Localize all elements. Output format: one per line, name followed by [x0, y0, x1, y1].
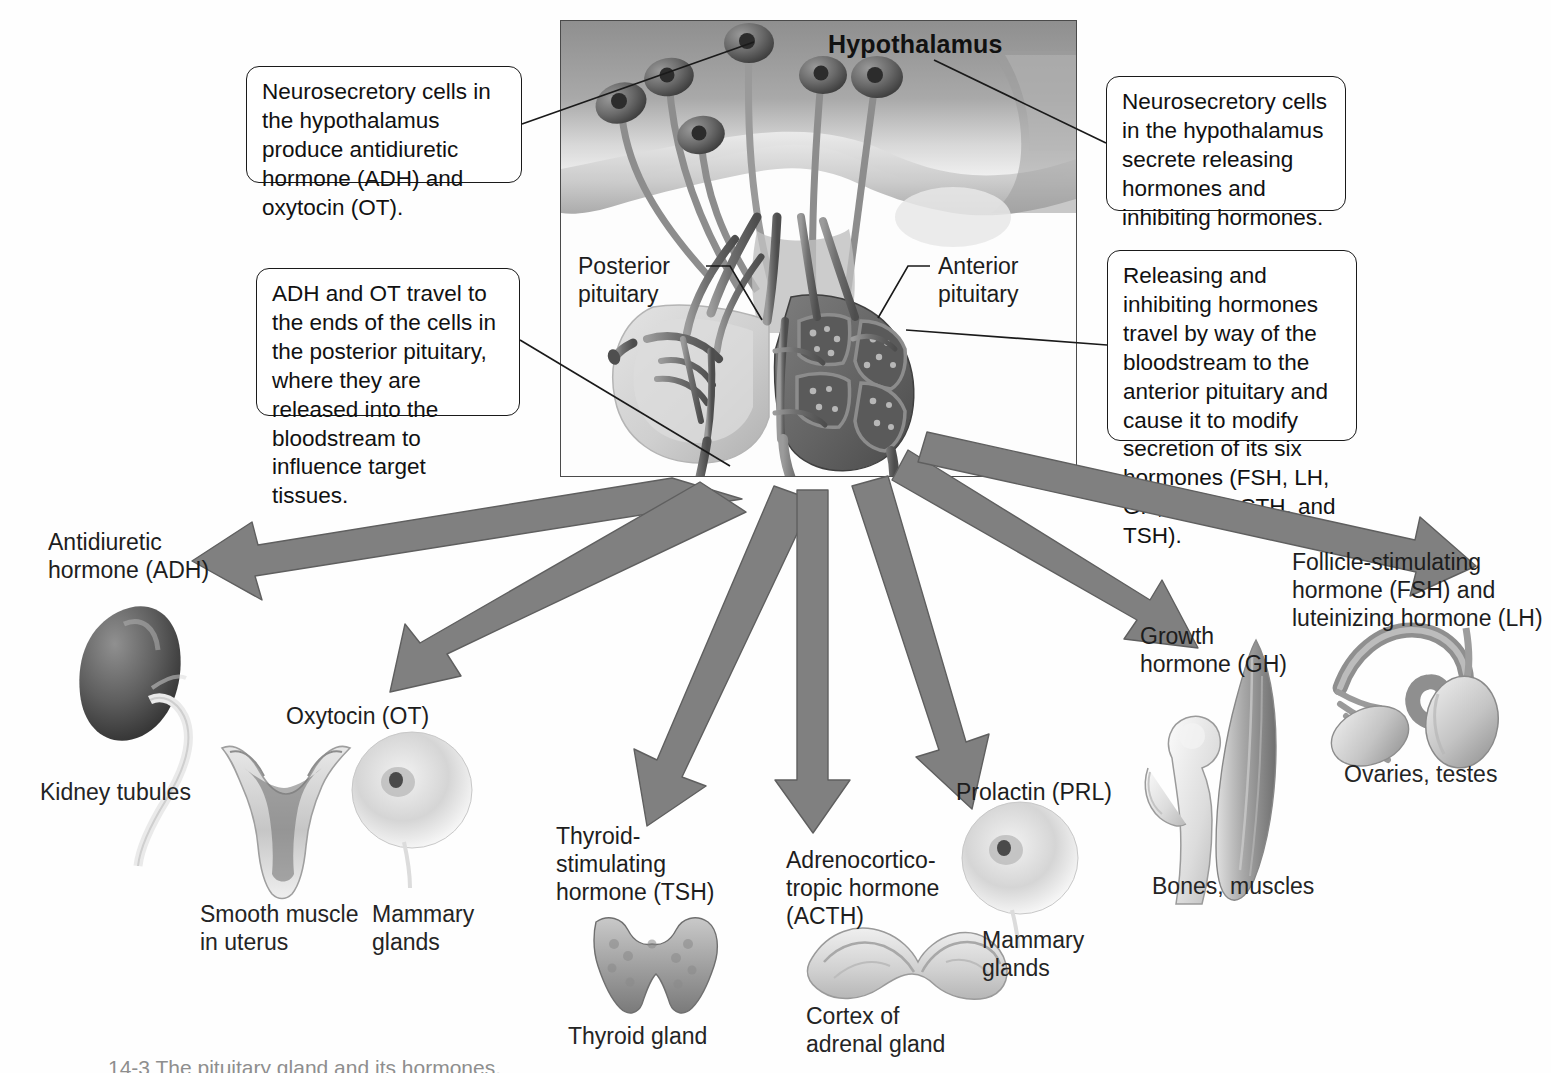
- hormone-label-fsh-lh: Follicle-stimulating hormone (FSH) and l…: [1292, 548, 1543, 632]
- callout-adh-ot-transport: ADH and OT travel to the ends of the cel…: [256, 268, 520, 416]
- hormone-label-acth: Adrenocortico- tropic hormone (ACTH): [786, 846, 939, 930]
- arrow-ot: [390, 482, 746, 692]
- hypothalamus-anatomy-svg: [561, 21, 1076, 476]
- target-label-thyroid: Thyroid gland: [568, 1022, 707, 1050]
- label-anterior-pituitary: Anterior pituitary: [938, 253, 1019, 308]
- organ-thyroid-gland: [594, 918, 717, 1013]
- panel-title-hypothalamus: Hypothalamus: [828, 30, 1003, 59]
- target-label-uterus: Smooth muscle in uterus: [200, 900, 359, 956]
- figure-caption: 14-3 The pituitary gland and its hormone…: [108, 1056, 501, 1073]
- organ-gonads: [1322, 628, 1504, 777]
- organ-uterus: [222, 746, 350, 898]
- hormone-label-gh: Growth hormone (GH): [1140, 622, 1287, 678]
- target-label-kidney: Kidney tubules: [40, 778, 191, 806]
- target-label-bones-muscles: Bones, muscles: [1152, 872, 1314, 900]
- organ-kidney: [79, 606, 188, 866]
- organ-mammary-gland-oxytocin: [352, 732, 472, 888]
- organ-bone-muscle: [1145, 640, 1276, 904]
- target-label-adrenal: Cortex of adrenal gland: [806, 1002, 945, 1058]
- target-label-mammary-ot: Mammary glands: [372, 900, 474, 956]
- hormone-label-adh: Antidiuretic hormone (ADH): [48, 528, 209, 584]
- hormone-label-prl: Prolactin (PRL): [956, 778, 1112, 806]
- label-posterior-pituitary: Posterior pituitary: [578, 253, 670, 308]
- arrow-acth: [775, 490, 850, 833]
- hypothalamus-illustration-frame: [560, 20, 1077, 477]
- callout-releasing-hormones: Neurosecretory cells in the hypothalamus…: [1106, 76, 1346, 211]
- arrow-tsh: [634, 486, 813, 826]
- target-label-mammary-prl: Mammary glands: [982, 926, 1084, 982]
- callout-adh-ot-production: Neurosecretory cells in the hypothalamus…: [246, 66, 522, 183]
- hormone-label-ot: Oxytocin (OT): [286, 702, 429, 730]
- callout-anterior-pituitary-modulation: Releasing and inhibiting hormones travel…: [1107, 250, 1357, 441]
- organ-adrenal-cortex: [807, 928, 1007, 999]
- hormone-label-tsh: Thyroid- stimulating hormone (TSH): [556, 822, 714, 906]
- arrow-prl: [852, 476, 989, 809]
- target-label-ovaries-testes: Ovaries, testes: [1344, 760, 1497, 788]
